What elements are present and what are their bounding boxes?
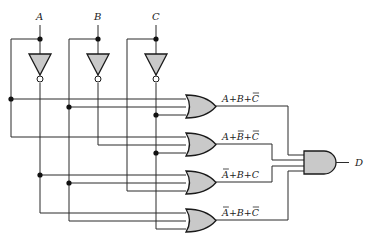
expression-term: + [229, 93, 237, 104]
or-to-and-wiring [216, 106, 304, 220]
input-label-a: A [35, 11, 43, 22]
input-label-b: B [93, 11, 101, 22]
or-gate-1-expression: A + B + C [221, 93, 260, 104]
or-gate-4-expression: A + B + C [221, 207, 260, 218]
expression-term: B [236, 93, 244, 104]
expression-term: + [229, 207, 237, 218]
inverter-a [29, 54, 51, 82]
or-gate-2-expression: A + B + C [221, 131, 260, 142]
inverter-b [87, 54, 109, 82]
expression-term: + [229, 169, 237, 180]
and-gate [304, 151, 336, 174]
complemented-variable: C [252, 131, 260, 142]
logic-circuit-diagram: A B C [0, 0, 374, 242]
expression-term: + [244, 169, 252, 180]
complemented-variable: B [236, 131, 244, 142]
complemented-variable: C [252, 207, 260, 218]
expression-term: + [229, 131, 237, 142]
expression-term: B [236, 169, 244, 180]
inverter-c [145, 54, 167, 82]
expression-term: + [244, 207, 252, 218]
expression-term: A [221, 93, 229, 104]
complemented-variable: C [252, 93, 260, 104]
or-gate-3 [186, 171, 216, 194]
input-label-c: C [152, 11, 160, 22]
expression-term: B [236, 207, 244, 218]
output-label-d: D [354, 157, 363, 168]
or-gate-3-expression: A + B + C [221, 169, 260, 180]
expression-term: + [244, 131, 252, 142]
or-gate-1 [186, 95, 216, 118]
expression-term: + [244, 93, 252, 104]
expression-term: C [252, 169, 260, 180]
or-gate-2 [186, 133, 216, 156]
complemented-variable: A [221, 169, 229, 180]
or-gate-4 [186, 209, 216, 232]
complemented-variable: A [221, 207, 229, 218]
expression-term: A [221, 131, 229, 142]
